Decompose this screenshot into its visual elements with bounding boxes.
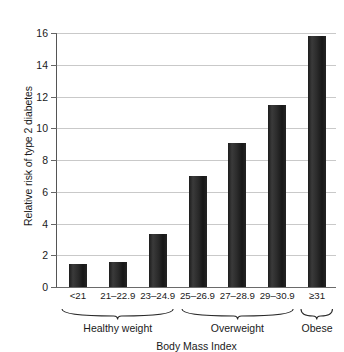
group-brace xyxy=(300,309,333,320)
bar xyxy=(189,176,207,287)
x-axis-line xyxy=(56,287,336,288)
plot-area: 0246810121416 <2121–22.923–24.925–26.927… xyxy=(57,33,336,287)
y-axis-tick-label: 12 xyxy=(36,91,48,102)
gridline xyxy=(57,97,336,98)
y-axis-tick-label: 2 xyxy=(42,250,48,261)
x-axis-tick-label: 27–28.9 xyxy=(220,291,255,301)
bar xyxy=(308,36,326,287)
y-axis-tick xyxy=(51,128,57,129)
bar xyxy=(69,264,87,287)
y-axis-tick-label: 6 xyxy=(42,187,48,198)
group-brace xyxy=(181,309,294,320)
bar xyxy=(109,262,127,287)
y-axis-tick-label: 16 xyxy=(36,28,48,39)
x-axis-tick-label: 21–22.9 xyxy=(100,291,135,301)
y-axis-tick-label: 0 xyxy=(42,282,48,293)
bar xyxy=(149,234,167,287)
x-axis-tick-label: ≥31 xyxy=(309,291,325,301)
y-axis-tick xyxy=(51,160,57,161)
y-axis-tick-label: 10 xyxy=(36,123,48,134)
x-axis-tick-label: <21 xyxy=(70,291,86,301)
y-axis-tick-label: 14 xyxy=(36,60,48,71)
y-axis-tick xyxy=(51,33,57,34)
gridline xyxy=(57,128,336,129)
bar xyxy=(268,105,286,287)
y-axis-title: Relative risk of type 2 diabetes xyxy=(22,36,34,276)
y-axis-tick xyxy=(51,65,57,66)
x-axis-title: Body Mass Index xyxy=(57,340,336,352)
x-axis-tick-label: 25–26.9 xyxy=(180,291,215,301)
x-axis-tick-label: 29–30.9 xyxy=(260,291,295,301)
bar xyxy=(228,143,246,287)
group-brace-label: Obese xyxy=(302,323,333,334)
y-axis-tick xyxy=(51,192,57,193)
x-axis-tick-label: 23–24.9 xyxy=(140,291,175,301)
gridline xyxy=(57,33,336,34)
y-axis-tick xyxy=(51,224,57,225)
gridline xyxy=(57,65,336,66)
gridline xyxy=(57,160,336,161)
y-axis-tick xyxy=(51,255,57,256)
group-brace xyxy=(61,309,174,320)
y-axis-tick-label: 8 xyxy=(42,155,48,166)
y-axis-tick xyxy=(51,287,57,288)
y-axis-tick-label: 4 xyxy=(42,218,48,229)
group-brace-label: Overweight xyxy=(211,323,264,334)
group-brace-label: Healthy weight xyxy=(83,323,152,334)
y-axis-tick xyxy=(51,97,57,98)
